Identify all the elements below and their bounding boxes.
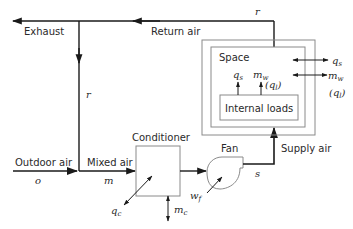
- mixed-var: m: [104, 175, 113, 186]
- internal-loads-label: Internal loads: [225, 103, 293, 114]
- outdoor-air-label: Outdoor air: [15, 157, 73, 168]
- outdoor-var: o: [35, 175, 41, 186]
- mixed-air-label: Mixed air: [87, 157, 134, 168]
- conditioner-mass-var: mc: [174, 204, 187, 217]
- fan-label: Fan: [221, 143, 238, 154]
- supply-air-label: Supply air: [281, 143, 332, 154]
- recirc-var: r: [86, 89, 92, 100]
- conditioner-label: Conditioner: [132, 132, 191, 143]
- boundary-mw-var: mw: [328, 70, 343, 83]
- supply-air-line: [243, 128, 274, 164]
- conditioner-heat-var: qc: [111, 205, 121, 218]
- conditioner-box: [136, 146, 180, 196]
- fan-housing: [207, 157, 243, 189]
- return-air-label: Return air: [151, 26, 201, 37]
- space-label: Space: [219, 52, 249, 63]
- supply-var: s: [255, 168, 260, 179]
- exhaust-label: Exhaust: [24, 26, 64, 37]
- internal-qs-var: qs: [233, 69, 243, 82]
- return-top-var: r: [255, 6, 261, 17]
- internal-ql-var: (ql): [265, 79, 282, 92]
- boundary-qs-var: qs: [332, 55, 342, 68]
- hvac-system-diagram: Exhaust Return air Outdoor air Mixed air…: [0, 0, 353, 229]
- fan-work-var: wf: [190, 190, 203, 203]
- boundary-ql-var: (ql): [329, 87, 346, 100]
